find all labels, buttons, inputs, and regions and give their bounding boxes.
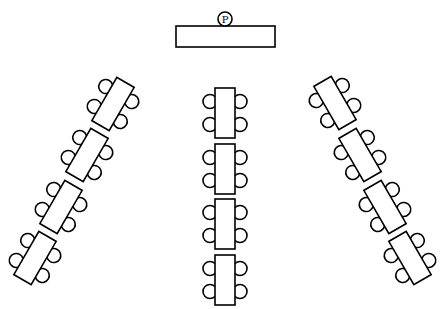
table-cluster [55, 122, 118, 187]
table-cluster [203, 255, 247, 305]
table-cluster [328, 122, 391, 187]
table-cluster [203, 88, 247, 138]
table [215, 88, 235, 138]
center-column [203, 88, 247, 305]
table-cluster [3, 225, 66, 290]
right-column [303, 70, 441, 290]
table-cluster [353, 174, 416, 239]
presenter-area: P [176, 12, 275, 47]
table-groups [3, 70, 441, 305]
table [215, 144, 235, 194]
table [215, 199, 235, 249]
table-cluster [81, 71, 144, 136]
table-cluster [29, 174, 92, 239]
table-cluster [203, 199, 247, 249]
table-cluster [203, 144, 247, 194]
presenter-desk [176, 26, 275, 47]
table-cluster [303, 70, 366, 135]
table-cluster [378, 225, 441, 290]
presenter-label: P [222, 14, 229, 25]
table [215, 255, 235, 305]
left-column [3, 71, 144, 290]
seating-diagram: P [0, 0, 448, 309]
